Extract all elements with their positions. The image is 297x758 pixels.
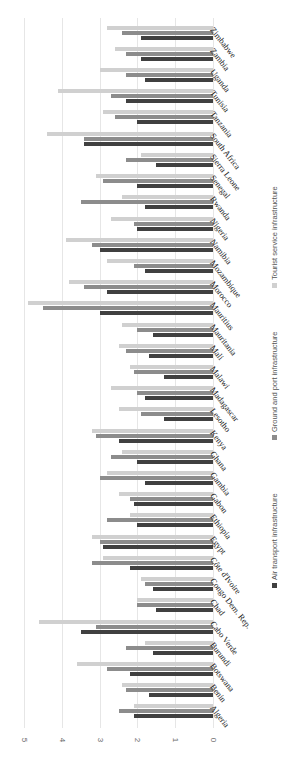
bar [145, 481, 213, 485]
axis-tick-label: 0 [206, 733, 220, 747]
bar [119, 709, 214, 713]
bar [130, 566, 213, 570]
bar [119, 407, 214, 411]
bar [122, 323, 213, 327]
bar [126, 349, 213, 353]
bar [145, 78, 213, 82]
bar [126, 688, 213, 692]
bar [137, 328, 213, 332]
bar [141, 36, 213, 40]
bar [134, 704, 213, 708]
bar [43, 306, 213, 310]
bar [122, 195, 213, 199]
legend-label-tourist: Tourist service infrastructure [270, 186, 279, 280]
rotated-bar-chart: 012345 AlgeriaBeninBotswanaBurundiCabo V… [0, 0, 297, 758]
bar [126, 646, 213, 650]
bar [126, 52, 213, 56]
bar [156, 608, 213, 612]
bar [111, 217, 213, 221]
bar [137, 391, 213, 395]
bar [141, 412, 213, 416]
legend-item-air: Air transport infrastructure [270, 493, 279, 588]
axis-tick-label: 3 [93, 733, 107, 747]
bar [130, 497, 213, 501]
bar [92, 429, 213, 433]
bar [77, 662, 213, 666]
bar [122, 450, 213, 454]
bar [96, 174, 213, 178]
bar [164, 417, 213, 421]
bar [81, 200, 213, 204]
bar [58, 89, 213, 93]
bar [96, 625, 213, 629]
bar [103, 110, 213, 114]
bar [153, 651, 213, 655]
bar [145, 582, 213, 586]
bar [130, 672, 213, 676]
bar [126, 73, 213, 77]
bar [92, 535, 213, 539]
bar [153, 333, 213, 337]
bar [141, 153, 213, 157]
bar [134, 264, 213, 268]
bar [103, 179, 213, 183]
bar [137, 184, 213, 188]
bar [107, 290, 213, 294]
bar [100, 311, 213, 315]
bar [111, 386, 213, 390]
bar [107, 471, 213, 475]
bar [153, 587, 213, 591]
legend-label-air: Air transport infrastructure [270, 493, 279, 580]
bar [137, 523, 213, 527]
bar [84, 142, 213, 146]
bar [100, 248, 213, 252]
bar [115, 47, 213, 51]
bar [122, 31, 213, 35]
legend: Air transport infrastructure Ground and … [270, 0, 290, 758]
bar [100, 540, 213, 544]
bar [126, 158, 213, 162]
bar [111, 94, 213, 98]
bar [107, 667, 213, 671]
bar [119, 492, 214, 496]
bar [115, 115, 213, 119]
bar [141, 577, 213, 581]
bar [92, 243, 213, 247]
bar [119, 439, 214, 443]
bar [134, 222, 213, 226]
bar [122, 683, 213, 687]
bar [156, 163, 213, 167]
bar [111, 455, 213, 459]
bar [100, 68, 213, 72]
bar [84, 137, 213, 141]
bar [66, 238, 213, 242]
bar [137, 603, 213, 607]
axis-tick-label: 5 [17, 733, 31, 747]
bar [145, 269, 213, 273]
bar [81, 630, 213, 634]
axis-tick-label: 1 [168, 733, 182, 747]
bar [84, 285, 213, 289]
legend-item-tourist: Tourist service infrastructure [270, 186, 279, 288]
bar [103, 556, 213, 560]
legend-swatch-air [272, 583, 277, 588]
bar [103, 545, 213, 549]
bar [69, 280, 213, 284]
gridline [24, 18, 25, 728]
bar [107, 26, 213, 30]
bar [134, 502, 213, 506]
bar [100, 476, 213, 480]
bar [130, 513, 213, 517]
bar [137, 227, 213, 231]
legend-label-ground: Ground and port infrastructure [270, 332, 279, 432]
bar [47, 132, 213, 136]
bar [107, 518, 213, 522]
bar [137, 120, 213, 124]
bar [145, 641, 213, 645]
bar [126, 99, 213, 103]
bar [141, 57, 213, 61]
bar [164, 375, 213, 379]
bar [134, 714, 213, 718]
bar [145, 205, 213, 209]
bar [145, 396, 213, 400]
